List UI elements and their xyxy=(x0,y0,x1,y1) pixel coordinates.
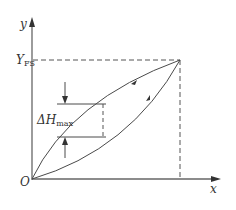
x-axis-label: x xyxy=(210,182,217,196)
origin-label: O xyxy=(20,175,30,189)
x-axis xyxy=(32,176,221,182)
up-arrow-icon xyxy=(62,137,68,145)
y-axis-arrow-icon xyxy=(29,17,35,27)
down-arrow-icon xyxy=(62,96,68,104)
hysteresis-diagram: y x O YFS ΔHmax xyxy=(0,0,236,210)
y-axis-label: y xyxy=(19,17,27,31)
max-hysteresis-label: ΔHmax xyxy=(36,113,73,128)
y-axis xyxy=(29,17,35,180)
loading-direction-arrow-icon xyxy=(146,95,150,101)
